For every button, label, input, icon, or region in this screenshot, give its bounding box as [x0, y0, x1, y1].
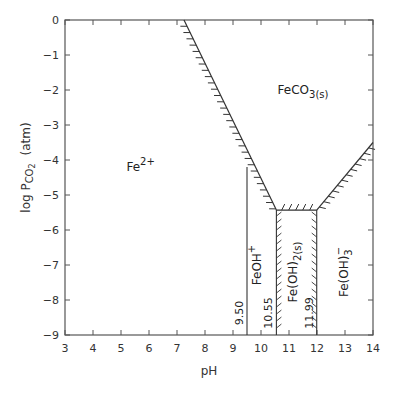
- y-tick-label: −2: [43, 84, 59, 97]
- hatch-mark: [319, 207, 326, 209]
- region-label: FeOH+: [246, 245, 264, 286]
- hatch-mark: [346, 175, 353, 177]
- x-tick-label: 12: [310, 342, 324, 355]
- eh-ph-predominance-chart: 345678910111213140−1−2−3−4−5−6−7−8−9pHlo…: [0, 0, 395, 393]
- hatch-mark: [355, 164, 362, 166]
- hatch-mark: [364, 153, 371, 155]
- y-axis-title: log PCO2(atm): [19, 122, 37, 212]
- y-tick-label: 0: [52, 14, 59, 27]
- plot-axes: 345678910111213140−1−2−3−4−5−6−7−8−9pHlo…: [19, 14, 380, 378]
- x-tick-label: 9: [230, 342, 237, 355]
- hatch-mark: [312, 289, 317, 293]
- saturation-boundary: [184, 20, 276, 210]
- hatch-mark: [312, 247, 317, 251]
- x-tick-label: 14: [366, 342, 380, 355]
- hatch-mark: [324, 202, 331, 204]
- x-tick-label: 11: [282, 342, 296, 355]
- hatch-mark: [351, 169, 358, 171]
- hatch-mark: [296, 204, 299, 210]
- hatch-mark: [276, 261, 281, 265]
- x-tick-label: 13: [338, 342, 352, 355]
- hatch-mark: [312, 268, 317, 272]
- x-axis-title: pH: [201, 364, 218, 378]
- x-tick-label: 10: [254, 342, 268, 355]
- x-tick-label: 7: [174, 342, 181, 355]
- hatch-mark: [276, 289, 281, 293]
- hatch-mark: [276, 233, 281, 237]
- hatch-mark: [276, 296, 281, 300]
- y-tick-label: −3: [43, 119, 59, 132]
- hatch-mark: [276, 310, 281, 314]
- hatch-mark: [312, 240, 317, 244]
- hatch-mark: [289, 204, 292, 210]
- hatch-mark: [337, 186, 344, 188]
- hatch-mark: [276, 275, 281, 279]
- hatch-mark: [276, 324, 281, 328]
- hatch-mark: [312, 254, 317, 258]
- hatch-mark: [369, 148, 376, 150]
- y-tick-label: −4: [43, 154, 59, 167]
- hatch-mark: [333, 191, 340, 193]
- hatch-mark: [312, 212, 317, 216]
- hatch-mark: [342, 180, 349, 182]
- hatch-mark: [312, 282, 317, 286]
- x-tick-label: 5: [118, 342, 125, 355]
- saturation-boundary: [317, 143, 373, 211]
- hatch-mark: [312, 261, 317, 265]
- hatch-mark: [312, 233, 317, 237]
- hatch-mark: [276, 212, 281, 216]
- hatch-mark: [303, 204, 306, 210]
- region-label: Fe(OH)2(s): [286, 241, 303, 302]
- hatch-mark: [276, 317, 281, 321]
- hatch-mark: [282, 204, 285, 210]
- hatch-mark: [276, 254, 281, 258]
- y-tick-label: −5: [43, 189, 59, 202]
- y-tick-label: −8: [43, 294, 59, 307]
- hatch-mark: [312, 219, 317, 223]
- hatch-mark: [276, 268, 281, 272]
- x-tick-label: 4: [90, 342, 97, 355]
- region-label: FeCO3(s): [278, 83, 329, 100]
- boundary-value-label: 9.50: [233, 301, 246, 326]
- x-tick-label: 3: [62, 342, 69, 355]
- hatch-mark: [276, 247, 281, 251]
- region-label: Fe2+: [126, 156, 154, 174]
- hatch-mark: [328, 196, 335, 198]
- hatch-mark: [360, 159, 367, 161]
- hatch-mark: [312, 226, 317, 230]
- plot-frame: [65, 20, 373, 335]
- boundary-value-label: 11.99: [303, 297, 316, 329]
- x-tick-label: 8: [202, 342, 209, 355]
- hatch-mark: [276, 282, 281, 286]
- y-tick-label: −7: [43, 259, 59, 272]
- region-label: Fe(OH)3−: [333, 247, 354, 297]
- y-tick-label: −9: [43, 329, 59, 342]
- boundary-value-label: 10.55: [262, 297, 275, 329]
- hatch-mark: [276, 240, 281, 244]
- y-tick-label: −1: [43, 49, 59, 62]
- hatch-mark: [276, 303, 281, 307]
- hatch-mark: [312, 275, 317, 279]
- x-tick-label: 6: [146, 342, 153, 355]
- hatch-mark: [310, 204, 313, 210]
- y-tick-label: −6: [43, 224, 59, 237]
- hatch-mark: [276, 226, 281, 230]
- hatch-mark: [276, 219, 281, 223]
